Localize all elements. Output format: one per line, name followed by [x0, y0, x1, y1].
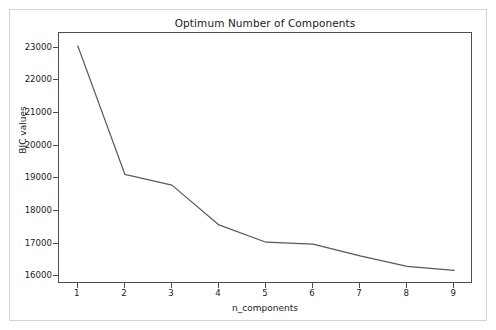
y-axis-tick-mark	[53, 112, 58, 113]
y-axis-tick-mark	[53, 243, 58, 244]
y-axis-tick-label: 23000	[6, 42, 52, 52]
x-axis-tick-mark	[218, 283, 219, 288]
x-axis-tick-mark	[453, 283, 454, 288]
y-axis-label: BIC values	[18, 85, 28, 175]
x-axis-tick-label: 9	[438, 288, 468, 298]
x-axis-tick-mark	[265, 283, 266, 288]
y-axis-tick-label: 17000	[6, 238, 52, 248]
x-axis-tick-label: 3	[156, 288, 186, 298]
y-axis-tick-mark	[53, 145, 58, 146]
chart-figure: Optimum Number of Components 16000170001…	[0, 0, 496, 330]
x-axis-tick-label: 6	[297, 288, 327, 298]
plot-area	[58, 32, 472, 283]
y-axis-tick-label: 20000	[6, 140, 52, 150]
x-axis-tick-mark	[124, 283, 125, 288]
x-axis-tick-mark	[312, 283, 313, 288]
chart-title: Optimum Number of Components	[58, 17, 472, 29]
y-axis-tick-label: 21000	[6, 107, 52, 117]
y-axis-tick-label: 22000	[6, 74, 52, 84]
x-axis-tick-label: 7	[344, 288, 374, 298]
x-axis-tick-label: 1	[62, 288, 92, 298]
y-axis-tick-mark	[53, 177, 58, 178]
x-axis-tick-label: 2	[109, 288, 139, 298]
x-axis-tick-label: 8	[391, 288, 421, 298]
x-axis-tick-label: 5	[250, 288, 280, 298]
x-axis-tick-mark	[77, 283, 78, 288]
y-axis-tick-label: 16000	[6, 270, 52, 280]
y-axis-tick-mark	[53, 47, 58, 48]
y-axis-tick-mark	[53, 79, 58, 80]
y-axis-tick-mark	[53, 210, 58, 211]
y-axis-tick-label: 19000	[6, 172, 52, 182]
x-axis-label: n_components	[58, 303, 472, 313]
line-chart-svg	[59, 33, 473, 284]
y-axis-tick-mark	[53, 275, 58, 276]
bic-series-line	[78, 46, 454, 270]
x-axis-tick-mark	[406, 283, 407, 288]
x-axis-tick-mark	[171, 283, 172, 288]
x-axis-tick-label: 4	[203, 288, 233, 298]
x-axis-tick-mark	[359, 283, 360, 288]
y-axis-tick-label: 18000	[6, 205, 52, 215]
